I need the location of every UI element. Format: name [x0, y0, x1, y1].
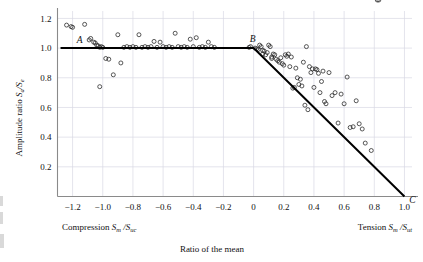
x-tick-label-7: 0.2 — [278, 202, 289, 212]
x-tick-label-8: 0.4 — [308, 202, 320, 212]
y-tick-label-1: 0.4 — [40, 132, 52, 142]
figure-caption: Ratio of the mean — [180, 244, 245, 254]
x-tick-label-1: −1.0 — [95, 202, 112, 212]
annotation-label-c: C — [409, 195, 416, 205]
fatigue-scatter-figure: −1.2−1.0−0.8−0.6−0.4−0.200.20.40.60.81.0… — [0, 0, 423, 262]
y-tick-label-5: 1.2 — [40, 14, 51, 24]
chart-canvas: −1.2−1.0−0.8−0.6−0.4−0.200.20.40.60.81.0… — [0, 0, 423, 262]
x-tick-label-9: 0.6 — [338, 202, 350, 212]
x-tick-label-3: −0.6 — [155, 202, 172, 212]
x-tick-label-4: −0.4 — [185, 202, 202, 212]
page-edge-mark-top — [0, 196, 3, 206]
x-tick-label-5: −0.2 — [215, 202, 231, 212]
x-axis-title-compression: Compression Sm /Suc — [62, 222, 136, 233]
x-tick-label-6: 0 — [251, 202, 256, 212]
y-tick-label-3: 0.8 — [40, 73, 52, 83]
page-edge-mark-bottom — [0, 234, 4, 248]
y-tick-label-0: 0.2 — [40, 162, 51, 172]
y-tick-label-4: 1.0 — [40, 43, 52, 53]
y-tick-label-2: 0.6 — [40, 103, 52, 113]
x-axis-title-tension: Tension Sm /Sut — [358, 222, 412, 233]
x-tick-label-10: 0.8 — [369, 202, 381, 212]
page-edge-mark-mid — [0, 212, 3, 224]
x-tick-label-2: −0.8 — [125, 202, 142, 212]
x-tick-label-0: −1.2 — [64, 202, 80, 212]
annotation-label-a: A — [76, 35, 83, 45]
annotation-label-b: B — [250, 34, 256, 44]
